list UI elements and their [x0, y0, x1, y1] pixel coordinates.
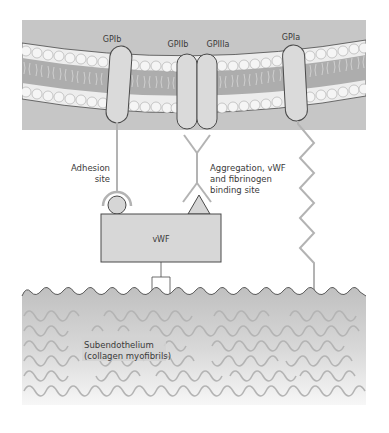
subendothelium-label-line2: (collagen myofibrils) — [84, 351, 171, 361]
vwf-label: vWF — [152, 235, 170, 244]
label-gpib: GPIb — [103, 35, 121, 44]
label-gpia: GPIa — [282, 33, 300, 42]
receptor-gpib — [105, 45, 132, 123]
adhesion-site-line2: site — [95, 174, 110, 184]
receptor-gpiiia — [197, 54, 217, 129]
aggregation-site-line1: Aggregation, vWF — [210, 163, 286, 173]
subendothelium-label-line1: Subendothelium — [84, 340, 154, 350]
label-gpiib: GPIIb — [168, 40, 189, 49]
aggregation-site-line3: binding site — [210, 185, 260, 195]
receptor-gpia — [282, 44, 308, 121]
gpia-collagen-linker — [298, 121, 314, 295]
platelet-adhesion-diagram: GPIb GPIIb GPIIIa GPIa vWF Adhesion site… — [0, 0, 389, 433]
receptor-gpiib — [177, 54, 197, 129]
subendothelium: Subendothelium (collagen myofibrils) — [22, 280, 366, 405]
aggregation-site-line2: and fibrinogen — [210, 174, 272, 184]
label-gpiiia: GPIIIa — [206, 40, 229, 49]
aggregation-receptor-y — [183, 135, 211, 202]
adhesion-ball — [108, 196, 126, 214]
adhesion-site-line1: Adhesion — [71, 163, 110, 173]
